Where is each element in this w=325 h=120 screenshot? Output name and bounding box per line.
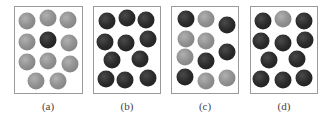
panel-c-label: (c) <box>185 100 225 112</box>
light-particle-icon <box>198 11 215 28</box>
dark-particle-icon <box>289 51 306 68</box>
light-particle-icon <box>40 53 57 70</box>
dark-particle-icon <box>40 32 57 49</box>
dark-particle-icon <box>253 33 270 50</box>
dark-particle-icon <box>177 69 194 86</box>
light-particle-icon <box>178 31 195 48</box>
light-particle-icon <box>50 73 67 90</box>
dark-particle-icon <box>178 11 195 28</box>
light-particle-icon <box>60 12 77 29</box>
dark-particle-icon <box>99 13 116 30</box>
dark-particle-icon <box>98 71 115 88</box>
dark-particle-icon <box>119 10 136 27</box>
light-particle-icon <box>198 73 215 90</box>
dark-particle-icon <box>140 70 157 87</box>
panel-d-label: (d) <box>264 100 304 112</box>
light-particle-icon <box>19 34 36 51</box>
dark-particle-icon <box>117 72 134 89</box>
dark-particle-icon <box>297 32 314 49</box>
dark-particle-icon <box>275 72 292 89</box>
light-particle-icon <box>40 10 57 27</box>
dark-particle-icon <box>138 12 155 29</box>
light-particle-icon <box>28 73 45 90</box>
light-particle-icon <box>275 11 292 28</box>
dark-particle-icon <box>132 51 149 68</box>
dark-particle-icon <box>219 44 236 61</box>
dark-particle-icon <box>104 52 121 69</box>
dark-particle-icon <box>219 17 236 34</box>
dark-particle-icon <box>255 13 272 30</box>
dark-particle-icon <box>253 71 270 88</box>
dark-particle-icon <box>261 52 278 69</box>
light-particle-icon <box>19 54 36 71</box>
light-particle-icon <box>177 49 194 66</box>
light-particle-icon <box>19 13 36 30</box>
dark-particle-icon <box>275 35 292 52</box>
dark-particle-icon <box>97 34 114 51</box>
light-particle-icon <box>219 70 236 87</box>
dark-particle-icon <box>118 35 135 52</box>
panel-b-label: (b) <box>107 100 147 112</box>
panel-a-label: (a) <box>28 100 68 112</box>
light-particle-icon <box>61 35 78 52</box>
dark-particle-icon <box>296 13 313 30</box>
dark-particle-icon <box>198 53 215 70</box>
dark-particle-icon <box>140 31 157 48</box>
light-particle-icon <box>62 56 79 73</box>
dark-particle-icon <box>296 70 313 87</box>
light-particle-icon <box>198 33 215 50</box>
